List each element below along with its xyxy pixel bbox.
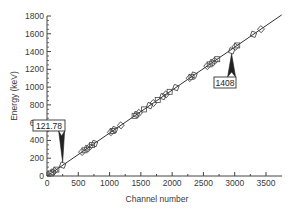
x-tick-label: 3500: [257, 178, 276, 188]
x-tick-label: 1500: [131, 178, 150, 188]
y-tick-label: 1600: [25, 29, 44, 39]
annotation-arrow-121: [59, 131, 65, 162]
x-tick-label: 3000: [225, 178, 244, 188]
annotations: 121.781408: [33, 54, 236, 162]
y-tick-label: 1000: [25, 82, 44, 92]
y-tick-label: 1800: [25, 11, 44, 21]
x-tick-label: 2000: [163, 178, 182, 188]
calibration-chart: 0500100015002000250030003500 02004006008…: [0, 0, 294, 208]
y-tick-label: 200: [30, 153, 44, 163]
x-tick-label: 1000: [100, 178, 119, 188]
y-tick-label: 800: [30, 100, 44, 110]
x-axis-title: Channel number: [126, 194, 189, 204]
x-tick-label: 0: [45, 178, 50, 188]
y-tick-label: 1400: [25, 47, 44, 57]
x-tick-label: 2500: [194, 178, 213, 188]
x-tick-label: 500: [71, 178, 85, 188]
y-tick-label: 1200: [25, 64, 44, 74]
annotation-arrow-1408: [228, 54, 236, 77]
y-axis-title: Energy (keV): [9, 71, 19, 121]
y-tick-label: 0: [39, 171, 44, 181]
y-tick-label: 400: [30, 135, 44, 145]
annotation-label-121: 121.78: [36, 121, 62, 131]
x-ticks: 0500100015002000250030003500: [45, 172, 276, 188]
annotation-label-1408: 1408: [216, 78, 235, 88]
